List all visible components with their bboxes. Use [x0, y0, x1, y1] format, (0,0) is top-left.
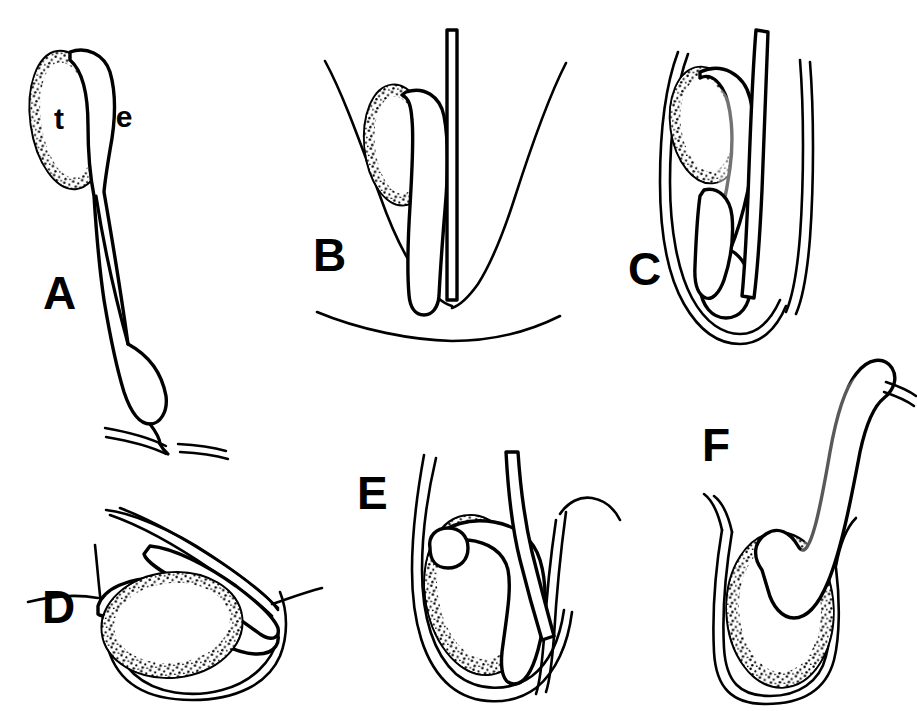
- panel-A: t e A: [22, 47, 228, 459]
- panel-label-D: D: [42, 581, 75, 633]
- panel-D: D: [28, 508, 322, 700]
- panel-label-A: A: [43, 267, 76, 319]
- figure-svg: t e A: [0, 0, 917, 711]
- panel-label-B: B: [313, 229, 346, 281]
- panel-E: E: [357, 452, 620, 701]
- panel-label-F: F: [702, 419, 730, 471]
- panel-B: B: [313, 30, 566, 341]
- figure-canvas: t e A: [0, 0, 917, 711]
- annotation-e: e: [116, 100, 133, 133]
- panel-C: C: [628, 30, 813, 344]
- panel-F: F: [702, 360, 916, 704]
- annotation-t: t: [54, 102, 64, 135]
- panel-A-body-wall: [105, 428, 228, 459]
- panel-label-C: C: [628, 243, 661, 295]
- panel-label-E: E: [357, 467, 388, 519]
- panel-B-vas-deferens: [447, 30, 457, 300]
- panel-F-epididymis: [756, 360, 895, 618]
